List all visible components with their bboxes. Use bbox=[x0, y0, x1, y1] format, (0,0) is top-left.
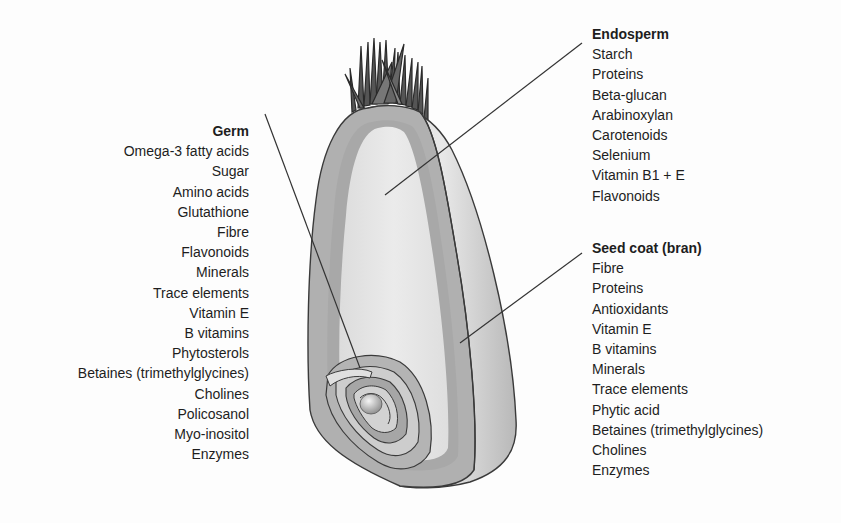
seed-coat-item: Vitamin E bbox=[592, 319, 763, 339]
seed-coat-item: Proteins bbox=[592, 278, 763, 298]
seed-coat-item: Trace elements bbox=[592, 379, 763, 399]
seed-coat-label-block: Seed coat (bran) Fibre Proteins Antioxid… bbox=[592, 238, 763, 480]
germ-item: Policosanol bbox=[78, 404, 249, 424]
germ-item: Omega-3 fatty acids bbox=[78, 141, 249, 161]
endosperm-item: Beta-glucan bbox=[592, 85, 685, 105]
seed-coat-item: Cholines bbox=[592, 440, 763, 460]
germ-item: B vitamins bbox=[78, 323, 249, 343]
endosperm-item: Arabinoxylan bbox=[592, 105, 685, 125]
seed-coat-item: Betaines (trimethylglycines) bbox=[592, 420, 763, 440]
seed-coat-item: Antioxidants bbox=[592, 299, 763, 319]
seed-coat-item: Phytic acid bbox=[592, 400, 763, 420]
endosperm-item: Proteins bbox=[592, 64, 685, 84]
seed-coat-title: Seed coat (bran) bbox=[592, 238, 763, 258]
germ-title: Germ bbox=[78, 121, 249, 141]
seed-coat-item: Minerals bbox=[592, 359, 763, 379]
seed-coat-item: Enzymes bbox=[592, 460, 763, 480]
germ-item: Glutathione bbox=[78, 202, 249, 222]
germ-item: Betaines (trimethylglycines) bbox=[78, 363, 249, 383]
germ-item: Fibre bbox=[78, 222, 249, 242]
endosperm-title: Endosperm bbox=[592, 24, 685, 44]
germ-item: Sugar bbox=[78, 161, 249, 181]
endosperm-item: Vitamin B1 + E bbox=[592, 165, 685, 185]
germ-item: Flavonoids bbox=[78, 242, 249, 262]
endosperm-label-block: Endosperm Starch Proteins Beta-glucan Ar… bbox=[592, 24, 685, 206]
endosperm-item: Selenium bbox=[592, 145, 685, 165]
endosperm-item: Starch bbox=[592, 44, 685, 64]
germ-item: Vitamin E bbox=[78, 303, 249, 323]
germ-item: Minerals bbox=[78, 262, 249, 282]
germ-item: Cholines bbox=[78, 384, 249, 404]
endosperm-item: Flavonoids bbox=[592, 186, 685, 206]
germ-item: Trace elements bbox=[78, 283, 249, 303]
germ-item: Myo-inositol bbox=[78, 424, 249, 444]
germ-item: Amino acids bbox=[78, 182, 249, 202]
seed-coat-item: Fibre bbox=[592, 258, 763, 278]
endosperm-item: Carotenoids bbox=[592, 125, 685, 145]
germ-label-block: Germ Omega-3 fatty acids Sugar Amino aci… bbox=[78, 121, 249, 464]
germ-item: Enzymes bbox=[78, 444, 249, 464]
germ-item: Phytosterols bbox=[78, 343, 249, 363]
seed-coat-item: B vitamins bbox=[592, 339, 763, 359]
